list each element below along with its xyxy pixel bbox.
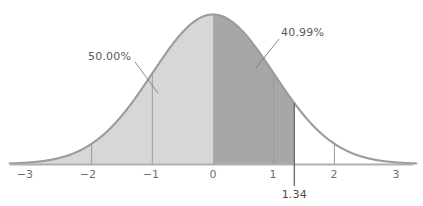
normal-distribution-chart: 50.00% 40.99% 1.34 −3 −2 −1 0 1 2 3 <box>0 0 423 206</box>
left-area-label: 50.00% <box>88 50 131 63</box>
x-tick-label-3: 3 <box>392 168 399 181</box>
z-value-label: 1.34 <box>282 188 307 201</box>
left-half-region <box>10 15 213 165</box>
x-tick-label-2: 2 <box>330 168 337 181</box>
x-tick-label-1: 1 <box>269 168 276 181</box>
x-tick-label--3: −3 <box>17 168 34 181</box>
x-tick-label--1: −1 <box>143 168 160 181</box>
x-tick-label-0: 0 <box>209 168 216 181</box>
right-area-label: 40.99% <box>281 26 324 39</box>
x-tick-label--2: −2 <box>80 168 97 181</box>
